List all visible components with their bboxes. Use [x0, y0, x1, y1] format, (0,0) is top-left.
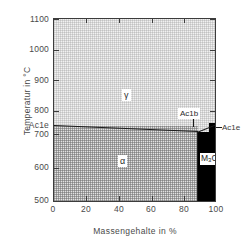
plot-area: γ α Ac1b M3C: [53, 18, 216, 202]
x-tick-label-100: 100: [201, 204, 231, 214]
x-axis-title: Massengehalte in %: [53, 226, 217, 236]
y-tick-1100: [54, 19, 59, 20]
x-tick-80: [184, 196, 185, 201]
annotation-ac1e-right-pointer: [216, 127, 222, 128]
boundary-carbide-vertical: [197, 131, 198, 202]
m3c-c: C: [211, 153, 216, 163]
y-tick-800: [54, 111, 59, 112]
x-tick-label-0: 0: [38, 204, 68, 214]
x-tick-60: [152, 196, 153, 201]
y-tick-label-1000: 1000: [3, 44, 49, 54]
y-tick-right-800: [210, 111, 215, 112]
y-tick-right-1100: [210, 19, 215, 20]
y-tick-label-1100: 1100: [3, 14, 49, 24]
y-tick-900: [54, 80, 59, 81]
annotation-ac1e-right: Ac1e: [222, 123, 240, 132]
y-tick-600: [54, 168, 59, 169]
phase-label-alpha: α: [118, 155, 127, 167]
x-tick-top-80: [184, 19, 185, 23]
y-tick-label-700: 700: [3, 129, 49, 139]
y-tick-1000: [54, 50, 59, 51]
y-tick-right-1000: [210, 50, 215, 51]
region-carbide: [197, 132, 216, 201]
y-tick-700: [54, 134, 59, 135]
x-tick-top-60: [152, 19, 153, 23]
x-tick-label-60: 60: [136, 204, 166, 214]
phase-label-m3c: M3C: [200, 153, 216, 165]
x-tick-label-80: 80: [169, 204, 199, 214]
annotation-ac1b-pointer: [193, 119, 194, 127]
x-tick-20: [86, 196, 87, 201]
annotation-ac1b: Ac1b: [178, 108, 200, 119]
y-tick-500: [54, 201, 59, 202]
y-tick-right-900: [210, 80, 215, 81]
x-tick-label-40: 40: [104, 204, 134, 214]
y-tick-label-900: 900: [3, 75, 49, 85]
y-tick-label-600: 600: [3, 162, 49, 172]
phase-label-gamma: γ: [122, 89, 131, 101]
x-tick-top-40: [119, 19, 120, 23]
phase-diagram-figure: Temperatur in °C 1100 1000 900 800 Ac1e …: [0, 0, 246, 247]
y-tick-label-800: 800: [3, 105, 49, 115]
x-tick-top-20: [86, 19, 87, 23]
x-tick-label-20: 20: [71, 204, 101, 214]
x-tick-40: [119, 196, 120, 201]
